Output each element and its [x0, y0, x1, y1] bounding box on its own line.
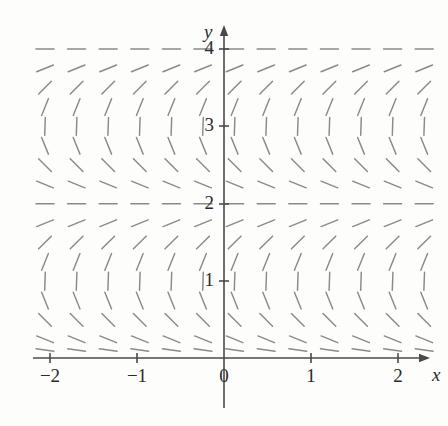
slope-segment [168, 292, 175, 309]
slope-segment [424, 272, 425, 290]
slope-segment [226, 349, 244, 352]
slope-segment [200, 292, 207, 309]
slope-segment [289, 349, 307, 352]
slope-segment [108, 117, 109, 135]
slope-segment [415, 349, 433, 352]
x-tick-label: −1 [117, 365, 157, 387]
slope-segment [386, 236, 399, 249]
slope-segment [165, 159, 178, 172]
slope-segment [39, 314, 52, 327]
slope-segment [418, 159, 431, 172]
slope-segment [162, 349, 180, 352]
slope-segment [392, 117, 393, 135]
slope-segment [323, 236, 336, 249]
slope-segment [163, 65, 180, 72]
slope-segment [70, 314, 83, 327]
slope-field-plot [0, 0, 448, 426]
slope-segment [294, 254, 301, 271]
slope-segment [329, 272, 330, 290]
slope-segment [326, 99, 333, 116]
slope-segment [228, 314, 241, 327]
slope-segment [291, 314, 304, 327]
slope-segment [197, 236, 210, 249]
slope-segment [200, 99, 207, 116]
slope-segment [102, 159, 115, 172]
slope-segment [416, 336, 433, 343]
slope-segment [165, 81, 178, 94]
slope-segment [326, 292, 333, 309]
x-axis-label: x [432, 364, 440, 386]
slope-segment-group [36, 49, 433, 351]
slope-segment [424, 117, 425, 135]
slope-segment [294, 292, 301, 309]
slope-segment [321, 65, 338, 72]
slope-segment [39, 236, 52, 249]
slope-segment [358, 137, 365, 154]
slope-segment [197, 81, 210, 94]
slope-segment [263, 292, 270, 309]
slope-segment [99, 349, 117, 352]
slope-segment [257, 349, 275, 352]
slope-segment [195, 65, 212, 72]
slope-segment [76, 272, 77, 290]
slope-segment [194, 349, 212, 352]
y-axis-arrow [220, 25, 228, 36]
slope-segment [195, 181, 212, 188]
slope-segment [37, 336, 54, 343]
slope-segment [37, 181, 54, 188]
slope-segment [329, 117, 330, 135]
slope-segment [355, 236, 368, 249]
slope-segment [37, 65, 54, 72]
slope-segment [36, 349, 54, 352]
slope-segment [418, 236, 431, 249]
slope-segment [226, 181, 243, 188]
slope-segment [165, 236, 178, 249]
slope-segment [361, 117, 362, 135]
slope-segment [136, 137, 143, 154]
slope-segment [291, 159, 304, 172]
slope-segment [352, 349, 370, 352]
slope-segment [353, 220, 370, 227]
slope-segment [231, 254, 238, 271]
slope-segment [389, 99, 396, 116]
slope-segment [70, 236, 83, 249]
slope-segment [297, 272, 298, 290]
slope-segment [139, 117, 140, 135]
slope-segment [326, 254, 333, 271]
slope-segment [133, 236, 146, 249]
slope-segment [289, 65, 306, 72]
slope-segment [289, 336, 306, 343]
slope-segment [195, 220, 212, 227]
slope-segment [131, 65, 148, 72]
slope-segment [389, 137, 396, 154]
slope-segment [323, 314, 336, 327]
slope-segment [105, 292, 112, 309]
slope-segment [266, 117, 267, 135]
slope-segment [68, 349, 86, 352]
slope-segment [133, 159, 146, 172]
slope-segment [105, 137, 112, 154]
slope-segment [131, 181, 148, 188]
slope-segment [421, 254, 428, 271]
slope-segment [197, 159, 210, 172]
slope-segment [131, 349, 149, 352]
slope-segment [139, 272, 140, 290]
slope-segment [421, 137, 428, 154]
slope-segment [418, 81, 431, 94]
slope-segment [136, 292, 143, 309]
slope-segment [258, 181, 275, 188]
slope-segment [384, 336, 401, 343]
slope-segment [355, 314, 368, 327]
slope-segment [136, 254, 143, 271]
slope-segment [418, 314, 431, 327]
slope-segment [258, 336, 275, 343]
slope-segment [73, 137, 80, 154]
slope-segment [384, 65, 401, 72]
x-tick-label: −2 [30, 365, 70, 387]
slope-segment [68, 65, 85, 72]
slope-segment [102, 314, 115, 327]
slope-segment [228, 159, 241, 172]
slope-segment [260, 314, 273, 327]
slope-segment [102, 236, 115, 249]
slope-segment [200, 137, 207, 154]
